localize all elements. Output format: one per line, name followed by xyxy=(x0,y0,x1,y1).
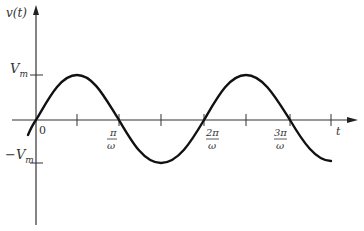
sine-curve xyxy=(28,75,331,163)
tick-label-2pi-over-omega: 2π ω xyxy=(205,127,219,151)
sine-wave-diagram: v(t) Vm −Vm 0 π ω 2π ω 3π ω t xyxy=(0,0,364,231)
svg-text:ω: ω xyxy=(208,140,216,151)
tick-label-3pi-over-omega: 3π ω xyxy=(274,127,287,151)
y-axis-label: v(t) xyxy=(6,6,27,20)
origin-label: 0 xyxy=(39,124,46,137)
svg-text:π: π xyxy=(109,127,117,138)
svg-text:3π: 3π xyxy=(274,127,287,138)
neg-vm-label: −Vm xyxy=(5,147,34,165)
vm-label: Vm xyxy=(10,61,28,79)
t-axis-label: t xyxy=(336,125,341,138)
tick-label-pi-over-omega: π ω xyxy=(107,127,117,151)
t-axis-arrow-icon xyxy=(347,117,358,123)
svg-text:ω: ω xyxy=(276,140,284,151)
y-axis-arrow-icon xyxy=(33,5,39,15)
svg-text:2π: 2π xyxy=(205,127,219,138)
svg-text:ω: ω xyxy=(107,140,115,151)
